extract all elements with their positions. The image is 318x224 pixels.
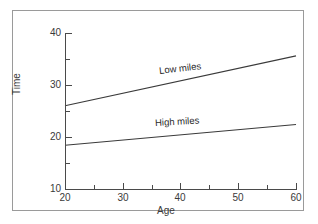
series-label-high-miles: High miles [155, 114, 200, 128]
y-tick-30 [66, 85, 72, 86]
x-tick-35 [152, 185, 153, 189]
x-tick-label-40: 40 [168, 192, 192, 203]
x-tick-25 [94, 185, 95, 189]
x-tick-label-60: 60 [284, 192, 308, 203]
x-tick-60 [296, 183, 297, 189]
y-tick-35 [66, 59, 70, 60]
x-tick-50 [238, 183, 239, 189]
series-label-low-miles: Low miles [158, 60, 201, 76]
x-tick-label-50: 50 [226, 192, 250, 203]
x-tick-20 [65, 183, 66, 189]
y-tick-20 [66, 137, 72, 138]
x-axis-title: Age [157, 205, 175, 216]
figure-frame: 40 30 20 10 20 30 40 50 60 Time Age Low … [12, 10, 304, 211]
x-tick-55 [267, 185, 268, 189]
y-axis-title: Time [11, 73, 22, 95]
y-tick-label-40: 40 [39, 27, 61, 38]
x-tick-40 [180, 183, 181, 189]
x-tick-label-30: 30 [111, 192, 135, 203]
x-tick-label-20: 20 [53, 192, 77, 203]
y-tick-40 [66, 33, 72, 34]
series-line-high-miles [65, 125, 296, 146]
x-axis-line [65, 189, 297, 190]
y-tick-label-20: 20 [39, 131, 61, 142]
y-tick-10 [66, 189, 72, 190]
x-tick-45 [209, 185, 210, 189]
x-tick-30 [123, 183, 124, 189]
y-tick-15 [66, 163, 70, 164]
y-tick-label-30: 30 [39, 79, 61, 90]
y-tick-25 [66, 111, 70, 112]
chart-figure: 40 30 20 10 20 30 40 50 60 Time Age Low … [0, 0, 318, 224]
